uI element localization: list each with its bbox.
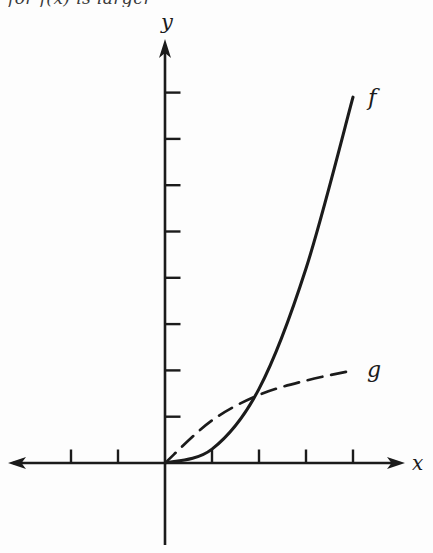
scanned-figure-page: for f(x) is larger y x f g bbox=[0, 0, 433, 553]
x-axis-label: x bbox=[412, 451, 423, 475]
curve-f bbox=[165, 97, 353, 463]
curve-f-label: f bbox=[366, 84, 380, 110]
function-graph-svg: y x f g bbox=[0, 0, 433, 553]
y-axis-label: y bbox=[160, 10, 174, 34]
curve-g bbox=[165, 370, 353, 463]
plot-layer bbox=[8, 39, 405, 545]
curve-g-label: g bbox=[367, 357, 381, 382]
